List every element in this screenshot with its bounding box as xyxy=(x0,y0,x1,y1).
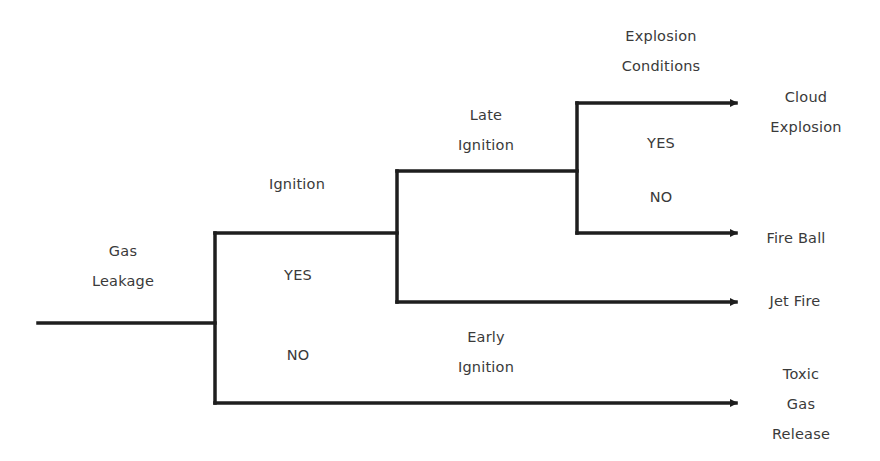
stage-header-ignition-line-1: Ignition xyxy=(269,169,325,199)
outcome-cloud-explosion-line-1: Cloud xyxy=(770,82,841,112)
event-tree-lines xyxy=(0,0,880,461)
stage-header-ignition: Ignition xyxy=(269,169,325,199)
root-label-line-2: Leakage xyxy=(92,266,154,296)
branch-label-explosion-yes: YES xyxy=(647,128,675,158)
stage-header-early-ignition-line-2: Ignition xyxy=(458,352,514,382)
outcome-fire-ball: Fire Ball xyxy=(766,223,825,253)
outcome-toxic-gas-release: Toxic Gas Release xyxy=(772,359,830,449)
branch-label-ignition-yes: YES xyxy=(284,260,312,290)
outcome-toxic-gas-release-line-3: Release xyxy=(772,419,830,449)
outcome-toxic-gas-release-line-2: Gas xyxy=(772,389,830,419)
outcome-jet-fire-line-1: Jet Fire xyxy=(770,286,821,316)
stage-header-early-ignition-line-1: Early xyxy=(458,322,514,352)
stage-header-early-ignition: Early Ignition xyxy=(458,322,514,382)
branch-label-ignition-no: NO xyxy=(287,340,310,370)
outcome-fire-ball-line-1: Fire Ball xyxy=(766,223,825,253)
outcome-cloud-explosion: Cloud Explosion xyxy=(770,82,841,142)
stage-header-late-ignition: Late Ignition xyxy=(458,100,514,160)
root-label-gas-leakage: Gas Leakage xyxy=(92,236,154,296)
root-label-line-1: Gas xyxy=(92,236,154,266)
stage-header-explosion-conditions-line-1: Explosion xyxy=(622,21,701,51)
stage-header-late-ignition-line-1: Late xyxy=(458,100,514,130)
outcome-toxic-gas-release-line-1: Toxic xyxy=(772,359,830,389)
stage-header-explosion-conditions: Explosion Conditions xyxy=(622,21,701,81)
stage-header-explosion-conditions-line-2: Conditions xyxy=(622,51,701,81)
branch-label-explosion-no: NO xyxy=(650,182,673,212)
outcome-jet-fire: Jet Fire xyxy=(770,286,821,316)
outcome-cloud-explosion-line-2: Explosion xyxy=(770,112,841,142)
stage-header-late-ignition-line-2: Ignition xyxy=(458,130,514,160)
